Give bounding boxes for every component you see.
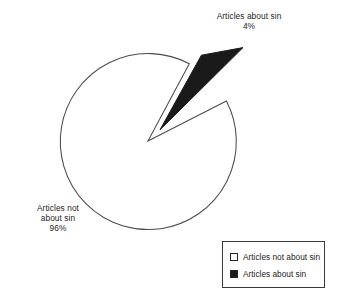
callout-not-about-sin-name-line-2: about sin bbox=[41, 213, 75, 223]
callout-not-about-sin-name-line-1: Articles not bbox=[37, 203, 79, 213]
callout-label-about-sin: Articles about sin 4% bbox=[193, 11, 305, 31]
legend-item-label: Articles not about sin bbox=[243, 253, 320, 262]
callout-about-sin-name: Articles about sin bbox=[217, 11, 282, 21]
chart-legend: Articles not about sin Articles about si… bbox=[222, 241, 325, 288]
legend-item-about-sin[interactable]: Articles about sin bbox=[230, 266, 324, 282]
callout-about-sin-percent: 4% bbox=[193, 21, 305, 31]
legend-item-not-about-sin[interactable]: Articles not about sin bbox=[230, 249, 324, 265]
filled-square-icon bbox=[230, 270, 238, 278]
pie-chart-figure: Articles about sin 4% Articles not about… bbox=[0, 0, 341, 300]
hollow-square-icon bbox=[230, 253, 238, 261]
callout-not-about-sin-percent: 96% bbox=[6, 223, 110, 233]
legend-item-label: Articles about sin bbox=[243, 270, 306, 279]
callout-label-not-about-sin: Articles not about sin 96% bbox=[6, 203, 110, 234]
